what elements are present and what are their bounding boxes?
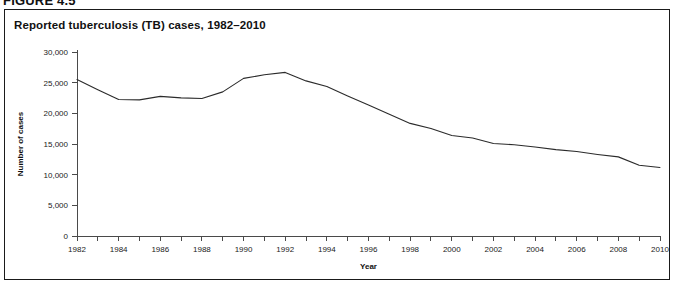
x-tick-label: 1982 bbox=[68, 245, 86, 254]
data-series bbox=[77, 72, 660, 167]
x-tick-label: 2006 bbox=[568, 245, 586, 254]
x-tick-label: 1990 bbox=[235, 245, 253, 254]
x-tick-label: 1996 bbox=[360, 245, 378, 254]
figure-number-label: FIGURE 4.5 bbox=[3, 0, 76, 7]
x-tick-label: 1994 bbox=[318, 245, 336, 254]
y-tick-label: 15,000 bbox=[44, 140, 69, 149]
y-tick-label: 0 bbox=[64, 232, 69, 241]
x-tick-label: 2000 bbox=[443, 245, 461, 254]
x-axis-title: Year bbox=[360, 262, 377, 271]
x-tick-label: 1998 bbox=[401, 245, 419, 254]
y-axis: 05,00010,00015,00020,00025,00030,000 bbox=[44, 48, 77, 241]
chart-panel: Reported tuberculosis (TB) cases, 1982–2… bbox=[4, 9, 670, 280]
x-tick-label: 1992 bbox=[276, 245, 294, 254]
line-chart-svg: 05,00010,00015,00020,00025,00030,000 198… bbox=[5, 40, 669, 279]
y-tick-label: 5,000 bbox=[48, 201, 69, 210]
y-axis-title: Number of cases bbox=[16, 111, 25, 176]
tb-cases-line bbox=[77, 72, 660, 167]
x-tick-label: 1986 bbox=[151, 245, 169, 254]
x-tick-label: 2008 bbox=[609, 245, 627, 254]
x-tick-label: 2010 bbox=[651, 245, 669, 254]
chart-title: Reported tuberculosis (TB) cases, 1982–2… bbox=[14, 19, 266, 31]
x-axis: 1982198419861988199019921994199619982000… bbox=[68, 236, 669, 254]
figure-container: FIGURE 4.5 Reported tuberculosis (TB) ca… bbox=[0, 0, 675, 285]
y-tick-label: 10,000 bbox=[44, 171, 69, 180]
y-tick-label: 25,000 bbox=[44, 79, 69, 88]
x-tick-label: 1984 bbox=[110, 245, 128, 254]
y-tick-label: 30,000 bbox=[44, 48, 69, 57]
x-tick-label: 2002 bbox=[485, 245, 503, 254]
x-tick-label: 1988 bbox=[193, 245, 211, 254]
x-tick-label: 2004 bbox=[526, 245, 544, 254]
y-tick-label: 20,000 bbox=[44, 109, 69, 118]
plot-area: 05,00010,00015,00020,00025,00030,000 198… bbox=[5, 40, 669, 279]
